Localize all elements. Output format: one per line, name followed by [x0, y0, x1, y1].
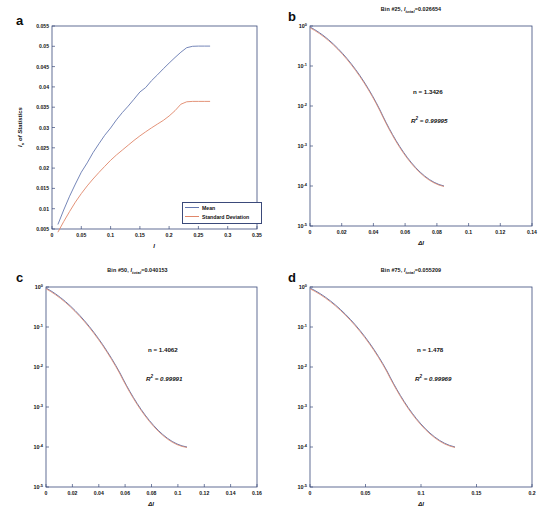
xtick: 0.14 [527, 229, 537, 235]
xtick: 0 [45, 490, 48, 496]
xtick: 0.1 [174, 490, 181, 496]
panel-a-x-axis-title: I [153, 243, 155, 249]
xtick: 0.3 [224, 232, 231, 238]
ytick: 0.01 [39, 206, 49, 212]
legend-label-stddev: Standard Deviation [202, 214, 249, 220]
ytick: 0.045 [36, 64, 49, 70]
panel-a-y-axis-title: Is of Statistics [17, 106, 25, 146]
r2-exponent: 2 [150, 374, 153, 379]
xtick: 0.35 [252, 232, 262, 238]
svg-text:10-1: 10-1 [34, 323, 44, 330]
ytick: 0.03 [39, 125, 49, 131]
xtick: 0 [51, 232, 54, 238]
svg-text:10-1: 10-1 [298, 323, 308, 330]
xtick: 0.16 [252, 490, 262, 496]
xtick: 0.2 [528, 490, 535, 496]
r2-value: = 0.99991 [155, 375, 183, 382]
xtick: 0.1 [107, 232, 114, 238]
panel-b-plot: 100 10-1 10-2 10-3 10-4 10-5 0 0.02 [275, 0, 547, 262]
xtick: 0.08 [147, 490, 157, 496]
panel-c-x-tick-labels: 0 0.02 0.04 0.06 0.08 0.1 0.12 0.14 0.16 [45, 490, 263, 496]
panel-d-curve-fit [310, 289, 455, 448]
panel-c-curve-fit [46, 289, 187, 448]
panel-d-x-ticks [310, 484, 532, 487]
svg-text:10-2: 10-2 [34, 363, 44, 370]
panel-c-axes-frame [46, 287, 257, 487]
panel-c-n-annotation: n = 1.4062 [148, 346, 178, 353]
panel-d-curve-data [310, 288, 455, 447]
r2-exponent: 2 [419, 374, 422, 379]
xtick: 0.04 [368, 229, 378, 235]
panel-b-curve-fit [310, 28, 444, 187]
svg-text:100: 100 [299, 22, 307, 29]
svg-text:10-3: 10-3 [34, 403, 44, 410]
panel-b-r2-annotation: R2 = 0.99995 [411, 116, 447, 124]
panel-b-axes-frame [310, 26, 532, 226]
panel-c-y-tick-labels: 100 10-1 10-2 10-3 10-4 10-5 [34, 283, 44, 490]
legend-line-icon [185, 207, 199, 208]
figure-panel-grid: a 0.005 0.01 0.015 0.02 [0, 0, 547, 523]
panel-b-curve-data [310, 27, 444, 186]
panel-d-plot: 100 10-1 10-2 10-3 10-4 10-5 0 0.05 0.1 … [275, 261, 547, 523]
panel-d-y-ticks [310, 287, 313, 487]
svg-text:10-3: 10-3 [298, 403, 308, 410]
xtick: 0.05 [76, 232, 86, 238]
svg-text:Is of Statistics: Is of Statistics [17, 106, 25, 146]
panel-a-legend: Mean Standard Deviation [182, 202, 262, 224]
panel-a-y-ticks [52, 26, 55, 229]
panel-a-x-tick-labels: 0 0.05 0.1 0.15 0.2 0.25 0.3 0.35 [51, 232, 263, 238]
panel-a: a 0.005 0.01 0.015 0.02 [0, 0, 275, 262]
svg-text:100: 100 [35, 283, 43, 290]
panel-b-x-axis-title: ΔI [417, 240, 424, 246]
panel-d: d Bin #75, Itotal=0.055209 100 10-1 10-2… [275, 261, 547, 523]
panel-a-series-mean [58, 46, 210, 224]
panel-b-x-tick-labels: 0 0.02 0.04 0.06 0.08 0.1 0.12 0.14 [309, 229, 538, 235]
ytick: 0.04 [39, 84, 49, 90]
ytick: 0.005 [36, 226, 49, 232]
legend-label-mean: Mean [202, 205, 215, 211]
panel-c-x-ticks [46, 484, 257, 487]
xtick: 0.15 [472, 490, 482, 496]
legend-item-mean: Mean [183, 203, 261, 212]
svg-text:10-5: 10-5 [34, 483, 44, 490]
xtick: 0.08 [432, 229, 442, 235]
panel-c: c Bin #50, Itotal=0.040153 100 10-1 10-2… [0, 261, 275, 523]
panel-b-y-ticks [310, 26, 313, 226]
xtick: 0.12 [495, 229, 505, 235]
panel-d-y-tick-labels: 100 10-1 10-2 10-3 10-4 10-5 [298, 283, 308, 490]
svg-text:100: 100 [299, 283, 307, 290]
svg-text:10-4: 10-4 [298, 443, 308, 450]
svg-text:10-4: 10-4 [298, 182, 308, 189]
xtick: 0.25 [193, 232, 203, 238]
legend-item-stddev: Standard Deviation [183, 212, 261, 221]
panel-d-r2-annotation: R2 = 0.99969 [415, 374, 451, 382]
ylabel-rest: of Statistics [17, 106, 23, 142]
panel-a-axes-frame [52, 26, 257, 229]
svg-text:10-1: 10-1 [298, 62, 308, 69]
r2-value: = 0.99969 [424, 375, 452, 382]
ytick: 0.02 [39, 165, 49, 171]
xtick: 0.2 [166, 232, 173, 238]
panel-a-x-ticks [52, 226, 257, 229]
ytick: 0.015 [36, 185, 49, 191]
xtick: 0.15 [135, 232, 145, 238]
r2-exponent: 2 [415, 116, 418, 121]
svg-text:10-5: 10-5 [298, 483, 308, 490]
xtick: 0.12 [199, 490, 209, 496]
svg-text:10-2: 10-2 [298, 363, 308, 370]
panel-b-x-ticks [310, 223, 532, 226]
xtick: 0.1 [417, 490, 424, 496]
panel-c-y-ticks [46, 287, 49, 487]
xtick: 0.02 [337, 229, 347, 235]
xtick: 0.02 [67, 490, 77, 496]
panel-c-plot: 100 10-1 10-2 10-3 10-4 10-5 0 0.02 [0, 261, 275, 523]
panel-d-x-tick-labels: 0 0.05 0.1 0.15 0.2 [309, 490, 536, 496]
panel-a-y-tick-labels: 0.005 0.01 0.015 0.02 0.025 0.03 0.035 0… [36, 23, 49, 232]
xtick: 0.05 [361, 490, 371, 496]
panel-b-y-tick-labels: 100 10-1 10-2 10-3 10-4 10-5 [298, 22, 308, 229]
ytick: 0.05 [39, 43, 49, 49]
xtick: 0 [309, 490, 312, 496]
panel-b: b Bin #25, Itotal=0.026654 100 10-1 10-2… [275, 0, 547, 262]
xtick: 0.1 [465, 229, 472, 235]
ytick: 0.025 [36, 145, 49, 151]
